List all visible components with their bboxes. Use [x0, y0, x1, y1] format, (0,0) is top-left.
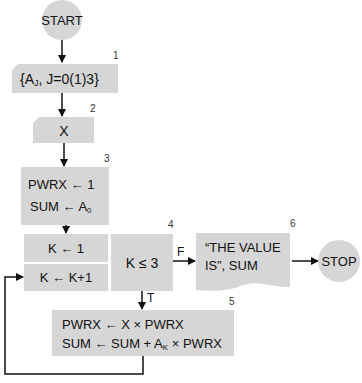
input-1-label: {AJ, J=0(1)3}	[20, 71, 99, 88]
output-6-line2: IS”, SUM	[205, 258, 258, 273]
input-box-1: 1 {AJ, J=0(1)3}	[12, 50, 119, 93]
input-box-2: 2 X	[33, 103, 96, 143]
process-5-line1: PWRX ← X × PWRX	[62, 317, 184, 332]
test-4-label: K ≤ 3	[126, 255, 159, 271]
loop-init-label: K ← 1	[48, 241, 84, 256]
flowchart: START 1 {AJ, J=0(1)3} 2 X 3 PWRX ← 1 SUM…	[0, 0, 362, 383]
step-number-5: 5	[229, 296, 235, 307]
test-box-4: 4 K ≤ 3	[111, 219, 174, 291]
step-number-4: 4	[168, 219, 174, 230]
start-label: START	[41, 13, 82, 28]
process-3-line1: PWRX ← 1	[28, 177, 94, 192]
stop-label: STOP	[321, 254, 356, 269]
false-label: F	[177, 245, 184, 259]
process-box-5: 5 PWRX ← X × PWRX SUM ← SUM + AK × PWRX	[52, 296, 235, 356]
start-terminal: START	[41, 0, 82, 40]
loop-increment-label: K ← K+1	[40, 270, 92, 285]
process-box-3: 3 PWRX ← 1 SUM ← A0	[21, 153, 110, 225]
loop-init-box: K ← 1	[24, 234, 108, 262]
true-label: T	[147, 291, 155, 305]
step-number-6: 6	[290, 218, 296, 229]
process-3-line2: SUM ← A0	[30, 199, 92, 215]
output-6-line1: “THE VALUE	[205, 240, 281, 255]
step-number-2: 2	[90, 103, 96, 114]
output-document-6: 6 “THE VALUE IS”, SUM	[196, 218, 296, 291]
stop-terminal: STOP	[318, 240, 360, 282]
step-number-3: 3	[104, 153, 110, 164]
input-2-label: X	[59, 123, 69, 139]
loop-increment-box: K ← K+1	[24, 264, 108, 291]
process-5-line2: SUM ← SUM + AK × PWRX	[62, 336, 222, 352]
step-number-1: 1	[113, 50, 119, 61]
